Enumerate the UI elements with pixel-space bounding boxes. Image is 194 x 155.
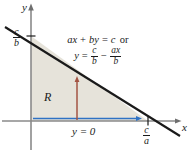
x-axis-label: x — [182, 122, 187, 133]
equation-equals-operator-1: = — [100, 35, 110, 46]
equation-fraction-2-denominator: b — [110, 56, 121, 67]
equation-fraction-1-denominator: b — [91, 56, 98, 67]
y-intercept-numerator: c — [13, 27, 20, 37]
y-axis-label: y — [22, 2, 27, 13]
equation-term-c: c — [110, 35, 117, 46]
figure-graphics — [0, 0, 194, 155]
equation-plus-operator: + — [78, 35, 88, 46]
y-intercept-denominator: b — [13, 37, 20, 48]
equation-fraction-2-numerator: ax — [110, 46, 121, 56]
equation-equals-operator-2: = — [80, 51, 90, 62]
equation-annotation: ax + by = c or y = c b − ax b — [66, 33, 128, 64]
y-intercept-label: c b — [13, 27, 20, 48]
region-label: R — [44, 91, 51, 103]
equation-line-2: y = c b − ax b — [66, 49, 128, 64]
lower-boundary-label: y = 0 — [72, 126, 95, 137]
equation-minus-operator: − — [99, 51, 109, 62]
equation-term-ax: ax — [66, 35, 78, 46]
equation-or-word: or — [117, 35, 129, 46]
equation-fraction-1-numerator: c — [91, 46, 98, 56]
x-intercept-label: c a — [143, 125, 150, 146]
x-intercept-numerator: c — [143, 125, 150, 135]
equation-term-by: by — [88, 35, 100, 46]
x-intercept-denominator: a — [143, 135, 150, 146]
figure-canvas: y x c b c a R y = 0 ax + by = c or y = c… — [0, 0, 194, 155]
equation-fraction-c-over-b: c b — [91, 46, 98, 66]
equation-fraction-ax-over-b: ax b — [110, 46, 121, 66]
equation-term-y: y — [73, 51, 80, 62]
